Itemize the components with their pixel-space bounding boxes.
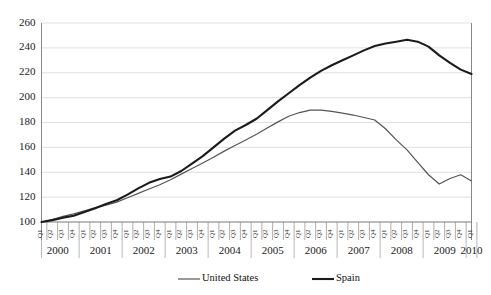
y-axis-tick-label: 120	[19, 190, 36, 202]
quarter-tick-label: Q4	[240, 229, 248, 238]
series-line-united-states	[42, 110, 472, 222]
y-axis-tick-label: 180	[19, 115, 36, 127]
quarter-tick-labels: Q1Q2Q3Q4Q1Q2Q3Q4Q1Q2Q3Q4Q1Q2Q3Q4Q1Q2Q3Q4…	[36, 222, 477, 240]
year-tick-label: 2004	[219, 244, 242, 256]
quarter-tick-label: Q3	[401, 229, 409, 238]
y-axis-tick-label: 140	[19, 165, 36, 177]
gridlines-group	[42, 23, 472, 222]
quarter-tick-label: Q3	[272, 229, 280, 238]
quarter-tick-label: Q3	[100, 229, 108, 238]
quarter-tick-label: Q2	[132, 229, 140, 238]
quarter-tick-label: Q1	[36, 229, 44, 238]
quarter-tick-label: Q1	[337, 229, 345, 238]
y-axis-tick-label: 100	[19, 215, 36, 227]
quarter-tick-label: Q2	[46, 229, 54, 238]
quarter-tick-label: Q1	[79, 229, 87, 238]
quarter-tick-label: Q1	[294, 229, 302, 238]
quarter-tick-label: Q1	[380, 229, 388, 238]
year-tick-label: 2000	[47, 244, 70, 256]
quarter-tick-label: Q4	[283, 229, 291, 238]
quarter-tick-label: Q1	[165, 229, 173, 238]
line-chart: 100120140160180200220240260 Q1Q2Q3Q4Q1Q2…	[0, 0, 491, 295]
year-tick-label: 2005	[262, 244, 285, 256]
y-axis-tick-label: 220	[19, 65, 36, 77]
y-axis-tick-label: 240	[19, 40, 36, 52]
quarter-tick-label: Q4	[197, 229, 205, 238]
y-axis-tick-label: 260	[19, 16, 36, 28]
quarter-tick-label: Q3	[358, 229, 366, 238]
quarter-tick-label: Q1	[423, 229, 431, 238]
quarter-tick-label: Q4	[154, 229, 162, 238]
chart-legend: United StatesSpain	[178, 272, 361, 283]
y-axis-tick-label: 160	[19, 140, 36, 152]
quarter-tick-label: Q3	[444, 229, 452, 238]
quarter-tick-label: Q2	[304, 229, 312, 238]
year-tick-labels: 2000200120022003200420052006200720082009…	[47, 244, 483, 256]
series-line-spain	[42, 40, 472, 222]
y-axis-tick-labels: 100120140160180200220240260	[19, 16, 36, 227]
quarter-tick-label: Q2	[89, 229, 97, 238]
year-tick-label: 2008	[391, 244, 414, 256]
chart-canvas: 100120140160180200220240260 Q1Q2Q3Q4Q1Q2…	[0, 0, 491, 295]
quarter-tick-label: Q2	[261, 229, 269, 238]
quarter-tick-label: Q2	[175, 229, 183, 238]
year-tick-label: 2001	[90, 244, 112, 256]
year-tick-label: 2003	[176, 244, 199, 256]
quarter-tick-label: Q2	[390, 229, 398, 238]
quarter-tick-label: Q1	[466, 229, 474, 238]
quarter-tick-label: Q1	[122, 229, 130, 238]
quarter-tick-label: Q3	[229, 229, 237, 238]
quarter-tick-label: Q4	[111, 229, 119, 238]
quarter-tick-label: Q2	[218, 229, 226, 238]
axis-lines	[42, 23, 472, 240]
legend-label-spain: Spain	[336, 272, 361, 283]
quarter-tick-label: Q4	[326, 229, 334, 238]
quarter-tick-label: Q3	[315, 229, 323, 238]
quarter-tick-label: Q3	[186, 229, 194, 238]
quarter-tick-label: Q1	[251, 229, 259, 238]
quarter-tick-label: Q1	[208, 229, 216, 238]
year-tick-label: 2006	[305, 244, 328, 256]
year-tick-label: 2002	[133, 244, 155, 256]
series-lines-group	[42, 40, 472, 222]
quarter-tick-label: Q4	[369, 229, 377, 238]
quarter-tick-label: Q4	[412, 229, 420, 238]
year-tick-label: 2009	[434, 244, 457, 256]
legend-label-united-states: United States	[202, 272, 258, 283]
y-axis-tick-label: 200	[19, 90, 36, 102]
quarter-tick-label: Q2	[347, 229, 355, 238]
year-tick-label: 2010	[461, 244, 484, 256]
quarter-tick-label: Q4	[68, 229, 76, 238]
quarter-tick-label: Q2	[433, 229, 441, 238]
year-tick-label: 2007	[348, 244, 371, 256]
quarter-tick-label: Q4	[455, 229, 463, 238]
quarter-tick-label: Q3	[143, 229, 151, 238]
quarter-tick-label: Q3	[57, 229, 65, 238]
